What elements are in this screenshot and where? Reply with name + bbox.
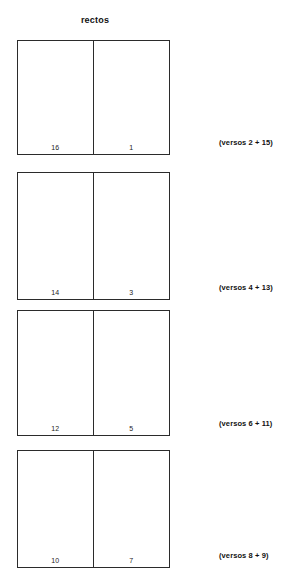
right-leaf-number: 1 <box>129 144 133 151</box>
left-leaf-number: 10 <box>51 557 59 564</box>
bifolium-left-leaf: 12 <box>18 311 94 435</box>
left-leaf-number: 12 <box>51 425 59 432</box>
right-leaf-number: 5 <box>129 425 133 432</box>
bifolium-right-leaf: 3 <box>94 173 170 299</box>
bifolium-left-leaf: 10 <box>18 451 94 567</box>
verso-label: (versos 2 + 15) <box>219 138 295 147</box>
bifolium-sheet: 125 <box>17 310 170 436</box>
bifolium-sheet: 107 <box>17 450 170 568</box>
bifolia-diagram: rectos 161(versos 2 + 15)143(versos 4 + … <box>0 0 295 574</box>
right-leaf-number: 3 <box>129 289 133 296</box>
left-leaf-number: 16 <box>51 144 59 151</box>
bifolium-left-leaf: 16 <box>18 41 94 154</box>
right-leaf-number: 7 <box>129 557 133 564</box>
bifolium-sheet: 161 <box>17 40 170 155</box>
left-leaf-number: 14 <box>51 289 59 296</box>
page-title: rectos <box>0 15 190 25</box>
verso-label: (versos 4 + 13) <box>219 283 295 292</box>
verso-label: (versos 8 + 9) <box>219 551 295 560</box>
bifolium-sheet: 143 <box>17 172 170 300</box>
verso-label: (versos 6 + 11) <box>219 419 295 428</box>
bifolium-right-leaf: 1 <box>94 41 170 154</box>
bifolium-left-leaf: 14 <box>18 173 94 299</box>
bifolium-right-leaf: 5 <box>94 311 170 435</box>
bifolium-right-leaf: 7 <box>94 451 170 567</box>
